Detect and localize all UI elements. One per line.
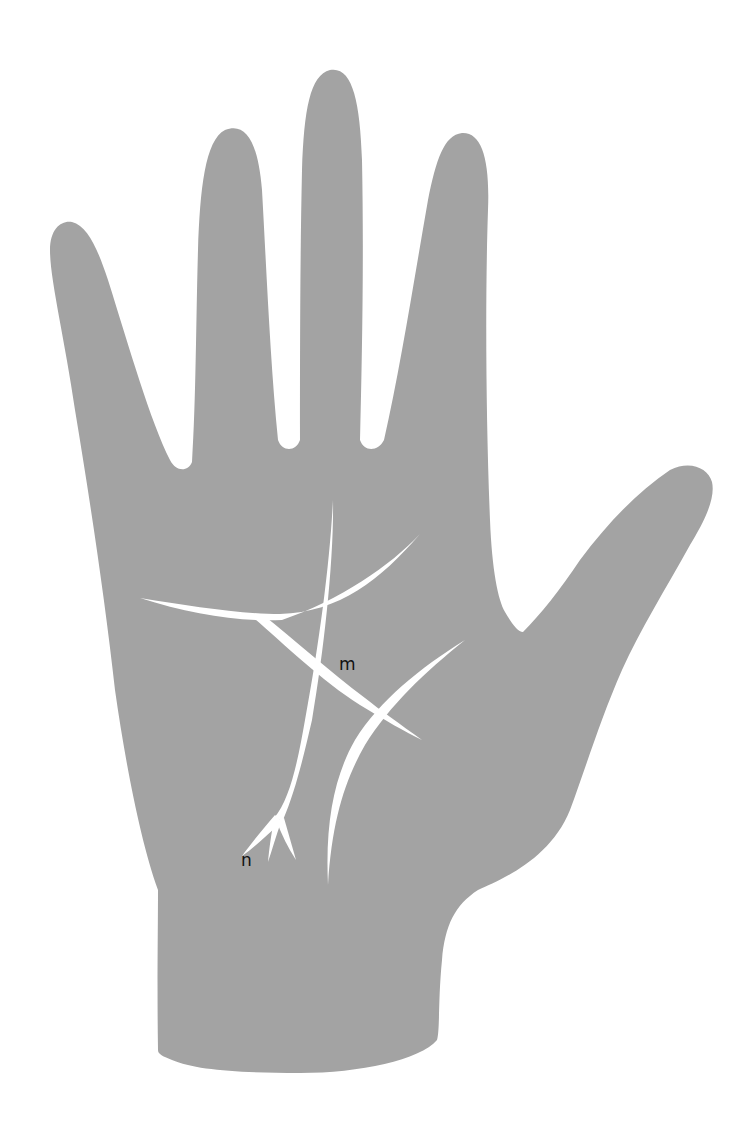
label-m: m [339,656,356,673]
label-n: n [241,852,252,869]
hand-diagram: m n [0,0,756,1139]
hand-svg [0,0,756,1139]
